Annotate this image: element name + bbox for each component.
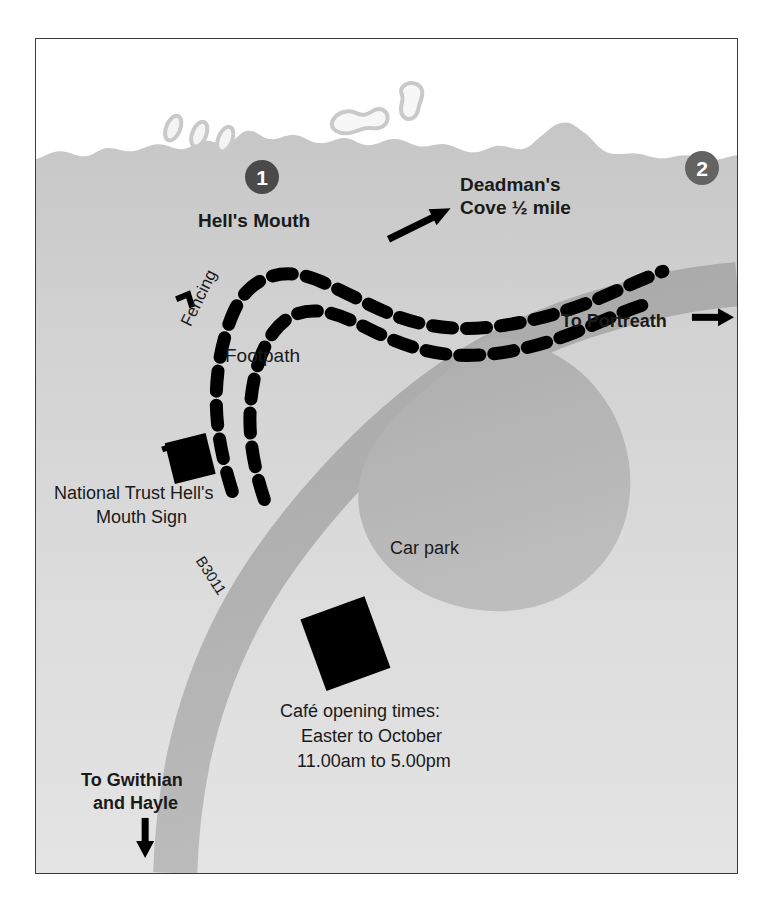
map-marker-2[interactable]: 2 — [685, 151, 719, 185]
label-to-gwithian-line1: To Gwithian — [81, 770, 183, 791]
map-marker-2-label: 2 — [696, 158, 708, 179]
label-deadmans-cove-line1: Deadman's — [460, 174, 561, 196]
label-hells-mouth: Hell's Mouth — [198, 210, 310, 232]
map-marker-1[interactable]: 1 — [245, 160, 279, 194]
map-canvas — [36, 39, 737, 873]
map-marker-1-label: 1 — [256, 167, 268, 188]
label-cafe-times-line3: 11.00am to 5.00pm — [297, 751, 451, 772]
label-nt-sign-line2: Mouth Sign — [96, 507, 187, 528]
label-footpath: Footpath — [225, 345, 300, 367]
map-root: Hell's Mouth Deadman's Cove ½ mile To Po… — [0, 0, 774, 909]
map-frame: Hell's Mouth Deadman's Cove ½ mile To Po… — [35, 38, 738, 874]
label-car-park: Car park — [390, 538, 459, 559]
label-to-portreath: To Portreath — [561, 311, 667, 332]
label-deadmans-cove-line2: Cove ½ mile — [460, 197, 571, 219]
label-to-gwithian-line2: and Hayle — [93, 793, 178, 814]
label-cafe-times-line2: Easter to October — [301, 726, 442, 747]
label-nt-sign-line1: National Trust Hell's — [54, 483, 214, 504]
label-cafe-times-line1: Café opening times: — [280, 701, 440, 722]
